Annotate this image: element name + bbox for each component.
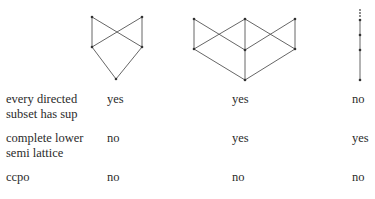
hasse-edge: [194, 49, 245, 80]
row-label-line: complete lower: [6, 131, 83, 146]
row-label-line: semi lattice: [6, 146, 83, 161]
hasse-edge: [92, 47, 116, 79]
hasse-node: [359, 34, 362, 37]
chain-diagram: [359, 9, 362, 81]
cell-r3-c3: no: [352, 170, 365, 185]
ellipsis-dot: [359, 15, 361, 17]
hasse-node: [141, 16, 144, 19]
hasse-node: [359, 49, 362, 52]
poset-1-diagram: [91, 16, 144, 81]
row-label-directed-sup: every directed subset has sup: [6, 92, 78, 122]
hasse-edge: [116, 47, 142, 79]
row-label-line: subset has sup: [6, 107, 78, 122]
hasse-node: [244, 79, 247, 82]
hasse-edge: [245, 49, 295, 80]
cell-r3-c1: no: [107, 170, 120, 185]
hasse-node: [193, 18, 196, 21]
cell-r2-c2: yes: [232, 131, 249, 146]
hasse-node: [359, 79, 362, 82]
cell-r1-c1: yes: [107, 92, 124, 107]
cell-r3-c2: no: [232, 170, 245, 185]
ellipsis-dot: [359, 12, 361, 14]
hasse-node: [244, 18, 247, 21]
hasse-node: [294, 18, 297, 21]
hasse-node: [244, 49, 247, 52]
row-label-line: every directed: [6, 92, 78, 107]
cell-r1-c3: no: [352, 92, 365, 107]
cell-r2-c1: no: [107, 131, 120, 146]
row-label-ccpo: ccpo: [6, 170, 30, 185]
hasse-node: [91, 16, 94, 19]
hasse-node: [115, 78, 118, 81]
hasse-node: [141, 46, 144, 49]
poset-diagrams: [0, 0, 375, 92]
row-label-complete-lower-semilattice: complete lower semi lattice: [6, 131, 83, 161]
hasse-node: [91, 46, 94, 49]
hasse-node: [294, 48, 297, 51]
cell-r1-c2: yes: [232, 92, 249, 107]
row-label-line: ccpo: [6, 170, 30, 185]
poset-2-diagram: [193, 18, 297, 82]
cell-r2-c3: yes: [352, 131, 369, 146]
hasse-node: [359, 19, 362, 22]
ellipsis-dot: [359, 9, 361, 11]
hasse-node: [193, 48, 196, 51]
